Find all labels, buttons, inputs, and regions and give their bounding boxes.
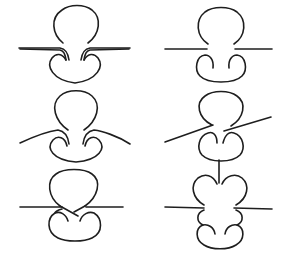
panel-1: [19, 6, 130, 84]
panel-6: [165, 160, 272, 249]
panel-5: [20, 170, 123, 242]
panel-3: [20, 91, 130, 162]
diagram-svg: [0, 0, 285, 257]
knot-diagram: [0, 0, 285, 257]
panel-4: [165, 92, 271, 162]
panel-2: [165, 8, 272, 83]
